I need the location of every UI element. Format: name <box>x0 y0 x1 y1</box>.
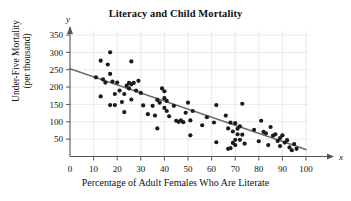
svg-text:100: 100 <box>50 117 64 127</box>
tick-labels: 0102030405060708090100501001502002503003… <box>50 30 314 173</box>
svg-text:90: 90 <box>278 164 288 174</box>
svg-text:300: 300 <box>50 48 64 58</box>
svg-text:20: 20 <box>113 164 123 174</box>
svg-text:50: 50 <box>184 164 194 174</box>
svg-text:350: 350 <box>50 30 64 40</box>
svg-text:250: 250 <box>50 65 64 75</box>
svg-text:200: 200 <box>50 82 64 92</box>
axis-symbols: xy <box>65 14 343 162</box>
svg-text:40: 40 <box>160 164 170 174</box>
svg-text:x: x <box>338 152 343 162</box>
svg-text:150: 150 <box>50 100 64 110</box>
scatter-plot-canvas: 0102030405060708090100501001502002503003… <box>0 0 351 201</box>
svg-text:70: 70 <box>231 164 241 174</box>
svg-text:60: 60 <box>207 164 217 174</box>
svg-text:30: 30 <box>136 164 146 174</box>
chart-figure: Literacy and Child Mortality Under-Five … <box>0 0 351 201</box>
svg-text:10: 10 <box>89 164 99 174</box>
svg-text:100: 100 <box>299 164 313 174</box>
svg-text:y: y <box>65 14 70 24</box>
svg-text:80: 80 <box>254 164 264 174</box>
svg-text:0: 0 <box>68 164 73 174</box>
svg-text:50: 50 <box>54 134 64 144</box>
